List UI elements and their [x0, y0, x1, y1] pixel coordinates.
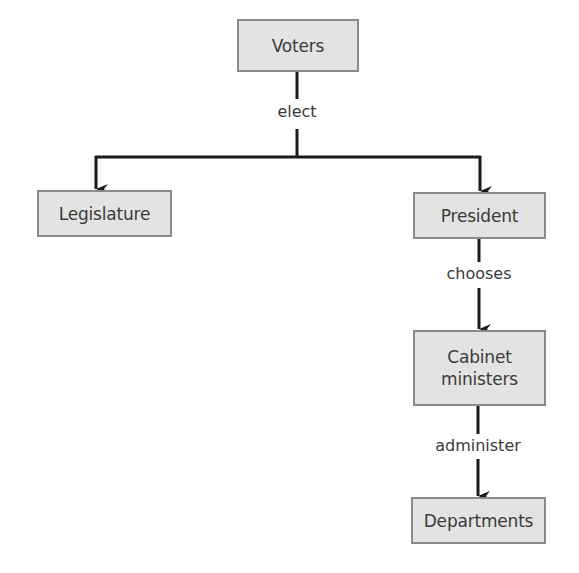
president-node: President	[413, 192, 546, 239]
administer-edge-label: administer	[433, 436, 523, 456]
legislature-node: Legislature	[37, 190, 172, 237]
voters-node: Voters	[237, 19, 359, 72]
voters-label: Voters	[272, 35, 324, 57]
president-label: President	[441, 205, 519, 227]
cabinet-label-line2: ministers	[441, 368, 518, 390]
chooses-edge-label: chooses	[444, 264, 513, 284]
diagram-canvas: Voters Legislature President Cabinet min…	[0, 0, 579, 573]
departments-node: Departments	[411, 497, 546, 544]
cabinet-label-line1: Cabinet	[447, 346, 511, 368]
elect-edge-label: elect	[275, 102, 318, 122]
legislature-label: Legislature	[59, 203, 150, 225]
cabinet-ministers-node: Cabinet ministers	[413, 330, 546, 406]
departments-label: Departments	[424, 510, 534, 532]
connector-lines	[0, 0, 579, 573]
